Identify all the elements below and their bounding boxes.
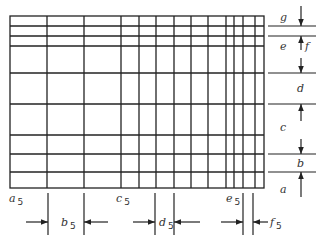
label-d: d [297, 82, 304, 95]
label-g: g [280, 11, 287, 24]
grid-diagram: g e f d c b a a5 b5 c5 d5 e5 f5 [0, 0, 325, 248]
label-a5: a5 [9, 192, 23, 207]
label-c: c [280, 121, 286, 134]
bottom-labels: a5 b5 c5 d5 e5 f5 [9, 192, 282, 231]
label-e: e [280, 40, 287, 53]
right-dimensions [268, 6, 316, 197]
label-d5: d5 [159, 216, 174, 231]
label-a: a [280, 183, 287, 196]
label-e5: e5 [226, 192, 240, 207]
vertical-grid-lines [47, 16, 255, 188]
label-f: f [304, 40, 311, 53]
label-c5: c5 [116, 192, 130, 207]
label-f5: f5 [269, 216, 282, 231]
label-b5: b5 [61, 216, 76, 231]
label-b: b [297, 157, 304, 170]
grid [10, 16, 264, 188]
